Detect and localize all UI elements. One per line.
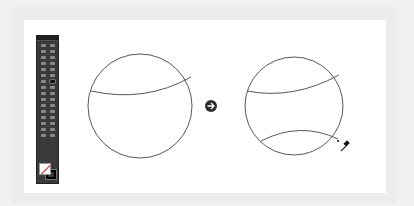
eyedropper-icon	[337, 140, 350, 151]
before-sphere[interactable]	[88, 54, 192, 158]
after-sphere[interactable]	[245, 57, 343, 155]
arrow-right-circle-icon	[205, 100, 217, 112]
artwork	[0, 0, 414, 206]
